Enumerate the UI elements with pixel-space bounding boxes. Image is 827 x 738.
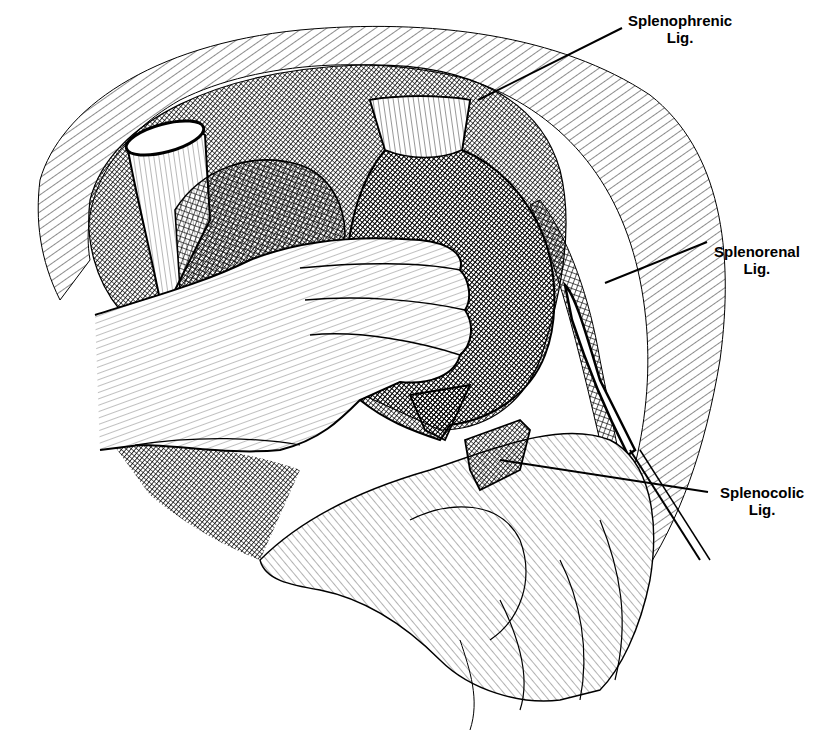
label-splenocolic-line1: Splenocolic (720, 484, 804, 501)
illustration-drawing (0, 0, 827, 738)
label-splenorenal: Splenorenal Lig. (714, 243, 800, 277)
colon (260, 420, 654, 730)
label-splenorenal-line1: Splenorenal (714, 243, 800, 260)
label-splenorenal-line2: Lig. (714, 260, 800, 277)
label-splenophrenic-line1: Splenophrenic (628, 12, 732, 29)
label-splenocolic-line2: Lig. (720, 501, 804, 518)
label-splenophrenic: Splenophrenic Lig. (628, 12, 732, 46)
label-splenophrenic-line2: Lig. (628, 29, 732, 46)
label-splenocolic: Splenocolic Lig. (720, 484, 804, 518)
anatomical-illustration: Splenophrenic Lig. Splenorenal Lig. Sple… (0, 0, 827, 738)
